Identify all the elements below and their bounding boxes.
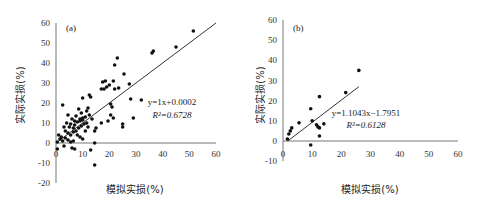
data-point [101,80,105,84]
data-point [287,132,291,136]
data-point [73,119,77,123]
trendline-equation: y=1x+0.0002 [148,97,196,107]
y-tick-label: 0 [46,138,51,148]
data-point [344,91,348,95]
data-point [192,29,196,33]
data-point [90,117,94,121]
data-point [65,121,69,125]
data-point [174,45,178,49]
data-point [318,95,322,99]
data-point [61,103,65,107]
x-tick-label: 40 [158,149,168,159]
data-point [112,116,116,120]
y-tick-label: 0 [273,136,278,146]
data-point [132,116,136,120]
data-point [85,109,89,113]
y-tick-label: 60 [268,15,278,25]
data-point [86,125,90,129]
data-point [77,107,81,111]
data-point [56,140,60,144]
data-point [69,122,73,126]
data-point [108,83,112,87]
data-point [112,79,116,83]
data-point [93,141,97,145]
y-axis-title: 实际实损(%) [254,66,266,123]
data-point [106,119,110,123]
y-tick-label: -10 [265,156,277,166]
data-point [93,163,97,167]
data-point [140,98,144,102]
data-point [80,111,84,115]
data-point [73,147,77,151]
data-point [322,122,326,126]
data-point [116,56,120,60]
y-tick-label: 30 [268,76,278,86]
y-tick-label: 20 [41,98,51,108]
y-tick-label: -10 [38,158,50,168]
data-point [57,133,61,137]
y-tick-label: 10 [41,118,51,128]
x-tick-label: 50 [424,149,434,159]
panel-label: (a) [66,23,76,33]
scatter-panel-a: -20-1001020304050600102030405060y=1x+0.0… [14,18,221,195]
data-point [318,126,322,130]
data-point [286,137,290,141]
x-tick-label: 30 [366,149,376,159]
scatter-panel-b: -1001020304050600102030405060y=1.1043x−1… [254,15,463,195]
x-axis-title: 模拟实损(%) [106,183,163,195]
data-point [102,87,106,91]
data-point [61,139,65,143]
x-tick-label: 60 [454,149,464,159]
y-tick-label: -20 [38,178,50,188]
data-point [297,121,301,125]
data-point [122,72,126,76]
data-point [81,137,85,141]
y-tick-label: 50 [41,38,51,48]
data-point [150,51,154,55]
data-point [72,139,76,143]
y-tick-label: 40 [41,58,51,68]
data-point [62,125,66,129]
data-point [72,126,76,130]
data-point [62,144,66,148]
data-point [81,116,85,120]
y-tick-label: 30 [41,78,51,88]
data-point [318,134,322,138]
r-squared-label: R²=0.6728 [151,110,192,120]
data-point [74,114,78,118]
r-squared-label: R²=0.6128 [345,120,386,130]
x-tick-label: 60 [212,149,222,159]
y-axis-title: 实际实损(%) [14,66,26,123]
x-tick-label: 20 [337,149,347,159]
data-point [89,95,93,99]
data-point [357,69,361,73]
x-axis-title: 模拟实损(%) [341,183,398,195]
data-point [117,86,121,90]
x-tick-label: 10 [78,149,88,159]
x-tick-label: 10 [308,149,318,159]
data-point [78,119,82,123]
y-tick-label: 50 [268,35,278,45]
data-point [100,121,104,125]
x-tick-label: 20 [105,149,115,159]
data-point [110,105,114,109]
data-point [56,147,60,151]
data-point [84,129,88,133]
x-tick-label: 0 [281,149,286,159]
x-tick-label: 30 [132,149,142,159]
data-point [129,97,133,101]
data-point [128,82,132,86]
panel-label: (b) [293,23,304,33]
data-point [66,113,70,117]
data-point [81,96,85,100]
data-point [310,119,314,123]
chart-canvas: -20-1001020304050600102030405060y=1x+0.0… [0,0,482,207]
y-tick-label: 20 [268,96,278,106]
data-point [88,113,92,117]
data-point [309,107,313,111]
data-point [121,125,125,129]
data-point [85,121,89,125]
data-point [109,113,113,117]
x-tick-label: 50 [185,149,195,159]
x-tick-label: 40 [395,149,405,159]
